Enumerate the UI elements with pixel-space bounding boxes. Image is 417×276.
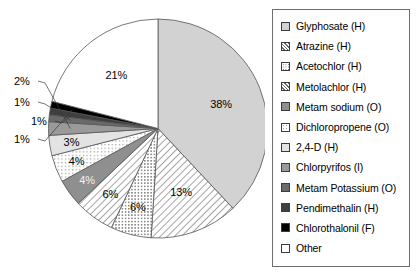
slice-value-label: 4% bbox=[79, 174, 95, 186]
legend-swatch-icon bbox=[281, 82, 290, 91]
legend-item-label: Chlorpyrifos (I) bbox=[296, 161, 363, 173]
legend-item[interactable]: Acetochlor (H) bbox=[281, 56, 409, 76]
legend-swatch-icon bbox=[281, 42, 290, 51]
legend-item[interactable]: Metam Potassium (O) bbox=[281, 178, 409, 198]
legend-item-label: 2,4-D (H) bbox=[296, 141, 338, 153]
slice-callout-label: 1% bbox=[14, 133, 30, 145]
pie-plot-area: 38%13%6%6%4%4%3%21% 2%1%1%1% bbox=[0, 0, 265, 276]
legend-item[interactable]: Glyphosate (H) bbox=[281, 16, 409, 36]
pie-svg bbox=[0, 0, 265, 276]
legend-item-label: Metolachlor (H) bbox=[296, 81, 366, 93]
legend-swatch-icon bbox=[281, 123, 290, 132]
legend-swatch-icon bbox=[281, 143, 290, 152]
legend-item-label: Chlorothalonil (F) bbox=[296, 222, 375, 234]
legend-swatch-icon bbox=[281, 183, 290, 192]
slice-value-label: 6% bbox=[103, 188, 119, 200]
legend-item[interactable]: Other bbox=[281, 238, 409, 258]
slice-value-label: 4% bbox=[69, 155, 85, 167]
legend-item[interactable]: Metolachlor (H) bbox=[281, 77, 409, 97]
legend-swatch-icon bbox=[281, 62, 290, 71]
legend-item[interactable]: Metam sodium (O) bbox=[281, 97, 409, 117]
slice-callout-label: 2% bbox=[14, 75, 30, 87]
legend-swatch-icon bbox=[281, 22, 290, 31]
legend-item-label: Pendimethalin (H) bbox=[296, 202, 378, 214]
legend-item[interactable]: Chlorothalonil (F) bbox=[281, 218, 409, 238]
legend-swatch-icon bbox=[281, 163, 290, 172]
slice-value-label: 13% bbox=[170, 186, 192, 198]
pie-slices bbox=[49, 19, 266, 238]
legend-swatch-icon bbox=[281, 223, 290, 232]
legend-swatch-icon bbox=[281, 102, 290, 111]
slice-value-label: 38% bbox=[210, 98, 232, 110]
slice-callout-label: 1% bbox=[31, 115, 47, 127]
legend-swatch-icon bbox=[281, 203, 290, 212]
legend-item[interactable]: 2,4-D (H) bbox=[281, 137, 409, 157]
legend-item-label: Metam Potassium (O) bbox=[296, 182, 396, 194]
slice-value-label: 6% bbox=[130, 201, 146, 213]
chart-legend: Glyphosate (H)Atrazine (H)Acetochlor (H)… bbox=[272, 9, 410, 267]
legend-item[interactable]: Atrazine (H) bbox=[281, 36, 409, 56]
pie-chart-figure: 38%13%6%6%4%4%3%21% 2%1%1%1% Glyphosate … bbox=[0, 0, 417, 276]
legend-item[interactable]: Chlorpyrifos (I) bbox=[281, 157, 409, 177]
legend-item[interactable]: Dichloropropene (O) bbox=[281, 117, 409, 137]
legend-item[interactable]: Pendimethalin (H) bbox=[281, 198, 409, 218]
slice-callout-label: 1% bbox=[14, 96, 30, 108]
legend-item-label: Atrazine (H) bbox=[296, 40, 351, 52]
legend-item-label: Dichloropropene (O) bbox=[296, 121, 389, 133]
slice-value-label: 21% bbox=[106, 69, 128, 81]
legend-swatch-icon bbox=[281, 244, 290, 253]
slice-value-label: 3% bbox=[64, 136, 80, 148]
legend-item-label: Other bbox=[296, 242, 322, 254]
legend-item-label: Acetochlor (H) bbox=[296, 60, 362, 72]
legend-item-label: Glyphosate (H) bbox=[296, 20, 365, 32]
legend-item-label: Metam sodium (O) bbox=[296, 101, 381, 113]
